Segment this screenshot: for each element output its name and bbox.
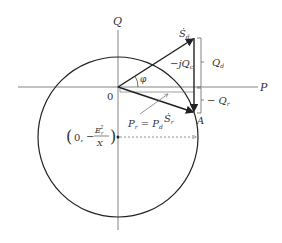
annotation-pointer [140, 94, 168, 114]
circle-center-point [117, 136, 120, 139]
p-axis-label: P [259, 81, 268, 94]
jqc-label: −jQc [170, 58, 194, 70]
s-r-label: Ṡr [164, 113, 175, 125]
q-r-brace [197, 88, 204, 113]
zero-coord: 0, [74, 132, 84, 143]
power-circle-diagram: Q P 0 Ṡd −jQc φ Qd − Qr Ṡr A Pr = Pd ( 0… [0, 0, 282, 243]
close-paren: ) [110, 127, 116, 146]
fraction-numerator: Er2 [94, 124, 104, 136]
pr-equals-pd-label: Pr = Pd [127, 118, 163, 130]
point-a-label: A [196, 115, 204, 126]
circle-center-label: ( 0, − Er2 X ) [66, 124, 116, 148]
q-d-brace [197, 38, 204, 87]
s-r-vector [118, 87, 193, 112]
phi-label: φ [140, 74, 147, 84]
open-paren: ( [66, 127, 72, 146]
minus-sign: − [86, 131, 94, 142]
origin-label: 0 [107, 91, 113, 102]
q-axis-label: Q [113, 15, 122, 28]
q-d-label: Qd [212, 57, 224, 69]
fraction-denominator: X [96, 139, 103, 148]
s-d-label: Ṡd [179, 28, 190, 40]
phi-angle-arc [135, 76, 138, 87]
q-r-label: − Qr [207, 95, 231, 107]
